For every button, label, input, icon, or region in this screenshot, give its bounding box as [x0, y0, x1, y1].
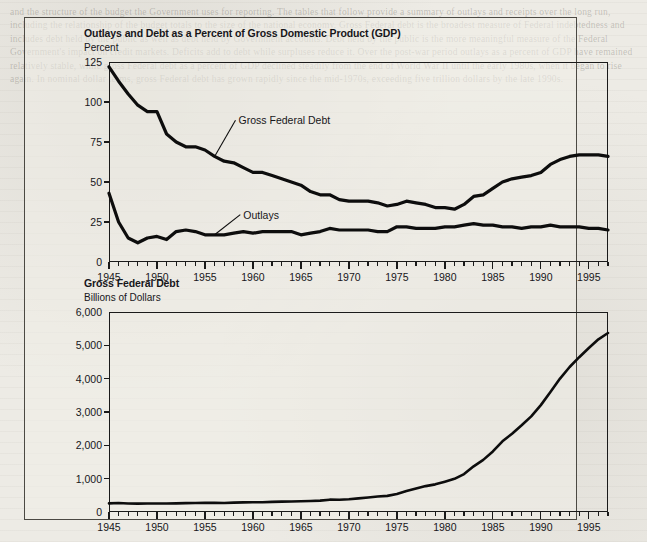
series-layer: [24, 17, 577, 277]
series-line: [109, 67, 608, 209]
x-axis-tick-label: 1995: [577, 271, 600, 283]
annotation-leader-line: [215, 120, 236, 156]
series-line: [109, 333, 608, 504]
x-axis-major-tick: [588, 512, 589, 519]
x-axis-minor-tick: [579, 262, 580, 266]
chart-outlays-and-debt-pct-gdp: Outlays and Debt as a Percent of Gross D…: [24, 17, 577, 269]
x-axis-major-tick: [588, 262, 589, 269]
series-annotation-label: Gross Federal Debt: [239, 114, 331, 126]
x-axis-minor-tick: [598, 512, 599, 516]
series-layer: [24, 269, 577, 529]
x-axis-minor-tick: [607, 262, 608, 266]
series-annotation-label: Outlays: [243, 209, 279, 221]
x-axis-minor-tick: [607, 512, 608, 516]
x-axis-tick-label: 1995: [577, 521, 600, 533]
chart-top-plot: 0255075100125194519501955196019651970197…: [24, 17, 577, 269]
chart-gross-federal-debt-dollars: Gross Federal Debt Billions of Dollars 0…: [24, 269, 577, 520]
chart-bottom-plot: 01,0002,0003,0004,0005,0006,000194519501…: [24, 269, 577, 520]
x-axis-minor-tick: [579, 512, 580, 516]
x-axis-minor-tick: [598, 262, 599, 266]
